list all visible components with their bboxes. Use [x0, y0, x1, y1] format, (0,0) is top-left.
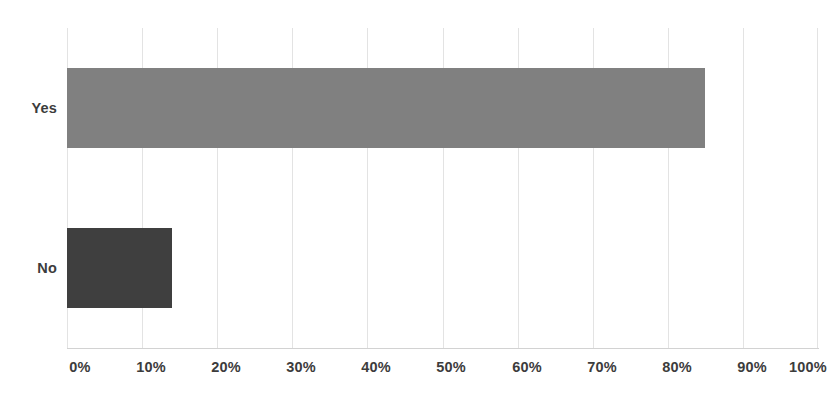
gridline-100 [817, 28, 818, 348]
x-tick-label-70: 70% [587, 360, 617, 375]
x-tick-label-90: 90% [737, 360, 767, 375]
x-tick-label-50: 50% [436, 360, 466, 375]
x-tick-label-10: 10% [136, 360, 166, 375]
y-axis-label-no: No [0, 261, 57, 276]
x-tick-label-40: 40% [361, 360, 391, 375]
x-tick-label-0: 0% [69, 360, 90, 375]
x-tick-label-20: 20% [211, 360, 241, 375]
x-tick-label-80: 80% [662, 360, 692, 375]
x-tick-label-60: 60% [512, 360, 542, 375]
x-axis-line [67, 348, 819, 349]
gridline-90 [743, 28, 744, 348]
bar-chart: Yes No 0% 10% 20% 30% 40% 50% 60% 70% 80… [0, 0, 834, 416]
plot-area [67, 28, 818, 348]
bar-no [67, 228, 172, 308]
x-tick-label-100: 100% [789, 360, 827, 375]
bar-yes [67, 68, 705, 148]
y-axis-label-yes: Yes [0, 101, 57, 116]
x-tick-label-30: 30% [286, 360, 316, 375]
